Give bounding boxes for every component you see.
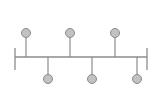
node-circle-icon — [88, 75, 97, 84]
node-circle-icon — [133, 75, 142, 84]
timeline-diagram — [0, 0, 161, 97]
node-circle-icon — [44, 75, 53, 84]
node-circle-icon — [22, 29, 31, 38]
node-circle-icon — [111, 29, 120, 38]
node-circle-icon — [66, 29, 75, 38]
